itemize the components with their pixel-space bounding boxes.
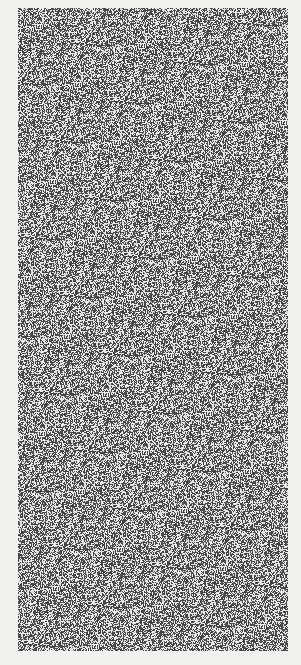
noise-texture-panel xyxy=(18,8,288,651)
noise-canvas xyxy=(18,8,288,651)
